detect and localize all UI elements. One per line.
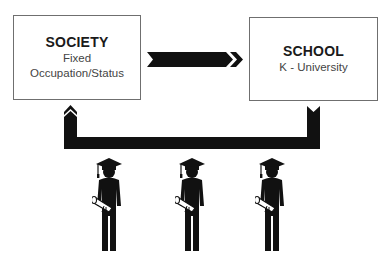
arrow-right-icon xyxy=(147,52,243,67)
return-arrow-icon xyxy=(64,105,320,149)
graduate-icon xyxy=(255,156,289,256)
graduate-icon xyxy=(175,156,209,256)
graduate-icon xyxy=(92,156,126,256)
